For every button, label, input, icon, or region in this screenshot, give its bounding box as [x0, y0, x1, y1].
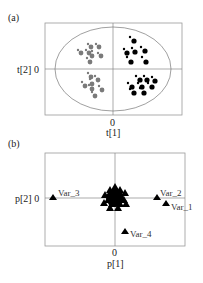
y-zero-tick: 0 — [34, 193, 39, 204]
panel-b-x-zero: 0 — [112, 247, 117, 258]
label-var-4: Var_4 — [130, 229, 152, 239]
score-plot — [45, 23, 182, 115]
marker-var-3 — [49, 194, 57, 200]
label-var-3: Var_3 — [58, 188, 80, 198]
label-var-2: Var_2 — [160, 188, 182, 198]
group-upper-right — [123, 36, 149, 65]
panel-b-xlabel: p[1] — [107, 258, 124, 269]
panel-b-label: (b) — [8, 138, 20, 149]
group-lower-left — [81, 72, 105, 99]
plots-canvas: Var_3 Var_2 Var_1 Var_4 — [0, 0, 203, 283]
label-var-1: Var_1 — [171, 202, 193, 212]
marker-var-1 — [162, 200, 170, 206]
y-axis-title: p[2] — [15, 193, 32, 204]
loading-plot: Var_3 Var_2 Var_1 Var_4 — [45, 153, 193, 246]
marker-var-4 — [121, 228, 129, 234]
variable-cluster — [100, 183, 130, 211]
group-upper-left — [77, 43, 104, 65]
panel-b-ylabel: p[2] 0 — [15, 193, 39, 204]
group-lower-right — [127, 75, 158, 96]
